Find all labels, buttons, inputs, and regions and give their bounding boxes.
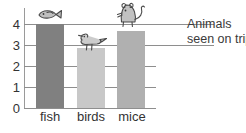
y-tick-4: 4 (0, 18, 20, 31)
y-axis-labels: 4 3 2 1 0 (0, 0, 20, 133)
bar-fish (36, 24, 64, 108)
annotation-line-1: Animals (187, 17, 246, 32)
chart-annotation: Animals seen on trip (187, 17, 246, 47)
y-tick-0: 0 (0, 102, 20, 115)
fish-doodle (34, 6, 64, 26)
x-axis-labels: fish birds mice (24, 110, 156, 130)
bar-mice (117, 31, 145, 108)
bar-chart: 4 3 2 1 0 (0, 0, 246, 133)
x-tick-mice: mice (108, 110, 156, 123)
mouse-doodle (112, 1, 152, 33)
plot-area (24, 8, 156, 108)
bird-doodle (74, 30, 108, 55)
y-tick-2: 2 (0, 60, 20, 73)
bar-birds (77, 48, 105, 108)
annotation-line-2: seen on trip (187, 32, 246, 47)
y-tick-1: 1 (0, 81, 20, 94)
y-tick-3: 3 (0, 39, 20, 52)
